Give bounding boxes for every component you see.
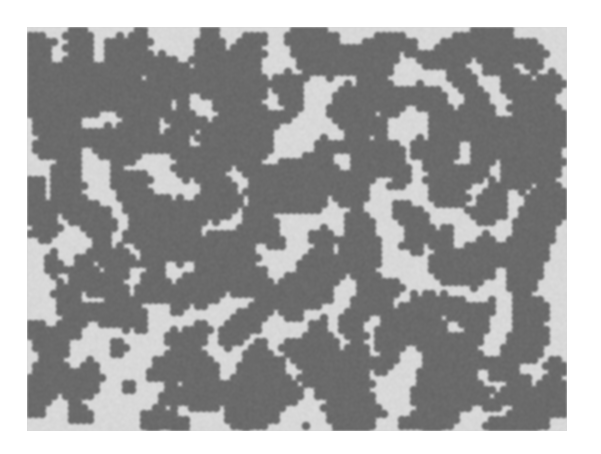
micrograph-image: [27, 27, 567, 431]
micrograph-frame: [27, 27, 567, 431]
